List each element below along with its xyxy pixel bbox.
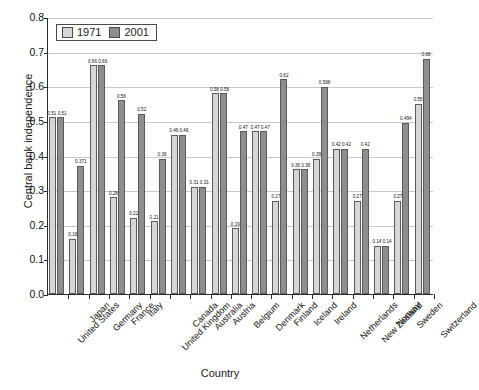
bar-group <box>271 18 291 294</box>
bar-value-label: 0.56 <box>117 94 126 99</box>
bar-2001-netherlands[interactable] <box>341 149 348 294</box>
x-tick-mark <box>109 294 110 299</box>
bar-2001-ireland[interactable] <box>321 87 328 294</box>
bar-group <box>109 18 129 294</box>
bar-value-label: 0.62 <box>279 73 288 78</box>
bar-1971-belgium[interactable] <box>232 228 239 294</box>
bar-1971-italy[interactable] <box>130 218 137 294</box>
bar-1971-united-states[interactable] <box>49 117 56 294</box>
bar-1971-ireland[interactable] <box>313 159 320 294</box>
bar-group <box>170 18 190 294</box>
x-tick-mark <box>211 294 212 299</box>
bar-group <box>414 18 434 294</box>
x-tick-mark <box>292 294 293 299</box>
bar-1971-canada[interactable] <box>171 135 178 294</box>
y-tick-label: 0.5 <box>10 115 48 127</box>
x-tick-mark <box>89 294 90 299</box>
bar-value-label: 0.51 0.51 <box>47 111 66 116</box>
bar-value-label: 0.68 <box>422 52 431 57</box>
bar-2001-finland[interactable] <box>280 79 287 294</box>
bar-2001-italy[interactable] <box>138 114 145 294</box>
bar-2001-iceland[interactable] <box>301 169 308 294</box>
bar-2001-united-kingdom[interactable] <box>159 159 166 294</box>
y-tick-label: 0.7 <box>10 46 48 58</box>
bar-group <box>68 18 88 294</box>
bar-1971-france[interactable] <box>110 197 117 294</box>
bar-1971-iceland[interactable] <box>293 169 300 294</box>
x-tick-mark <box>251 294 252 299</box>
y-tick-label: 0.2 <box>10 219 48 231</box>
y-tick-label: 0.4 <box>10 150 48 162</box>
bar-value-label: 0.494 <box>400 116 412 121</box>
bar-2001-germany[interactable] <box>98 65 105 294</box>
bar-value-label: 0.39 <box>158 152 167 157</box>
bar-1971-australia[interactable] <box>191 187 198 294</box>
bar-2001-canada[interactable] <box>179 135 186 294</box>
x-tick-mark <box>312 294 313 299</box>
bar-1971-norway[interactable] <box>374 246 381 294</box>
x-tick-mark <box>353 294 354 299</box>
bar-group <box>292 18 312 294</box>
bar-value-label: 0.55 <box>414 97 423 102</box>
bar-value-label: 0.371 <box>75 159 87 164</box>
x-tick-mark <box>332 294 333 299</box>
x-tick-mark <box>170 294 171 299</box>
bar-value-label: 0.66 0.66 <box>88 59 107 64</box>
bar-value-label: 0.22 <box>129 211 138 216</box>
bar-1971-new-zealand[interactable] <box>354 201 361 294</box>
bar-value-label: 0.19 <box>231 222 240 227</box>
legend-label-1971: 1971 <box>77 27 101 38</box>
bar-value-label: 0.39 <box>312 152 321 157</box>
bar-1971-denmark[interactable] <box>252 131 259 294</box>
bar-group <box>211 18 231 294</box>
bar-1971-netherlands[interactable] <box>333 149 340 294</box>
bar-2001-australia[interactable] <box>199 187 206 294</box>
bar-value-label: 0.21 <box>150 215 159 220</box>
bar-2001-belgium[interactable] <box>240 131 247 294</box>
bar-2001-new-zealand[interactable] <box>362 149 369 294</box>
bar-value-label: 0.27 <box>353 194 362 199</box>
bar-group <box>231 18 251 294</box>
bar-value-label: 0.58 0.58 <box>210 87 229 92</box>
bar-1971-finland[interactable] <box>272 201 279 294</box>
bar-2001-united-states[interactable] <box>57 117 64 294</box>
x-tick-mark <box>190 294 191 299</box>
bar-2001-austria[interactable] <box>220 93 227 294</box>
chart-legend: 1971 2001 <box>56 24 157 41</box>
bar-1971-japan[interactable] <box>69 239 76 294</box>
y-tick-label: 0.0 <box>10 288 48 300</box>
bar-1971-united-kingdom[interactable] <box>151 221 158 294</box>
bar-value-label: 0.14 0.14 <box>372 239 391 244</box>
bar-value-label: 0.46 0.46 <box>169 128 188 133</box>
bar-2001-switzerland[interactable] <box>423 59 430 294</box>
bar-2001-japan[interactable] <box>77 166 84 294</box>
bar-1971-sweden[interactable] <box>394 201 401 294</box>
bar-value-label: 0.27 <box>393 194 402 199</box>
x-tick-mark <box>373 294 374 299</box>
bar-2001-france[interactable] <box>118 100 125 294</box>
y-tick-label: 0.6 <box>10 80 48 92</box>
bar-value-label: 0.52 <box>137 107 146 112</box>
bar-2001-norway[interactable] <box>382 246 389 294</box>
x-tick-mark <box>271 294 272 299</box>
legend-swatch-1971 <box>62 27 73 38</box>
bar-value-label: 0.27 <box>271 194 280 199</box>
legend-item-1971: 1971 <box>62 27 101 38</box>
bar-group <box>129 18 149 294</box>
x-tick-mark <box>434 294 435 299</box>
bar-1971-germany[interactable] <box>90 65 97 294</box>
bar-1971-switzerland[interactable] <box>415 104 422 294</box>
bar-value-label: 0.42 <box>361 142 370 147</box>
bar-2001-denmark[interactable] <box>260 131 267 294</box>
bar-value-label: 0.47 <box>239 125 248 130</box>
x-tick-mark <box>231 294 232 299</box>
y-tick-label: 0.1 <box>10 253 48 265</box>
x-tick-label-switzerland: Switzerland <box>439 300 479 340</box>
bar-2001-sweden[interactable] <box>402 123 409 294</box>
plot-area: 0.00.10.20.30.40.50.60.70.80.51 0.510.16… <box>47 18 433 295</box>
bar-group <box>393 18 413 294</box>
bar-value-label: 0.47 0.47 <box>251 125 270 130</box>
bar-1971-austria[interactable] <box>212 93 219 294</box>
bar-group <box>48 18 68 294</box>
